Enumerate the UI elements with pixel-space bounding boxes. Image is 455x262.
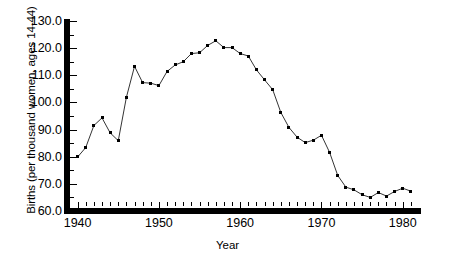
data-point <box>304 141 307 144</box>
data-point <box>214 39 217 42</box>
data-point <box>409 190 412 193</box>
data-point <box>149 82 152 85</box>
data-point <box>344 186 347 189</box>
data-point <box>287 126 290 129</box>
data-point <box>182 60 185 63</box>
data-point <box>328 151 331 154</box>
data-point <box>92 124 95 127</box>
data-point <box>206 44 209 47</box>
data-point <box>312 139 315 142</box>
data-point <box>385 195 388 198</box>
data-point <box>141 81 144 84</box>
data-point <box>109 131 112 134</box>
data-point <box>279 111 282 114</box>
birth-rate-line-chart: Births (per thousand women, ages 14-44) … <box>0 0 455 262</box>
data-point <box>361 193 364 196</box>
data-point <box>222 46 225 49</box>
data-point <box>352 188 355 191</box>
data-point <box>239 52 242 55</box>
data-point <box>296 136 299 139</box>
data-point <box>336 174 339 177</box>
data-point <box>133 65 136 68</box>
data-point <box>198 51 201 54</box>
data-point <box>247 55 250 58</box>
data-point <box>271 88 274 91</box>
data-point <box>190 52 193 55</box>
data-point <box>84 146 87 149</box>
data-point <box>393 190 396 193</box>
data-point <box>255 68 258 71</box>
data-point <box>101 116 104 119</box>
data-point <box>76 155 79 158</box>
data-point <box>377 191 380 194</box>
data-point <box>369 196 372 199</box>
data-point <box>231 46 234 49</box>
data-point <box>157 84 160 87</box>
x-axis-title: Year <box>0 239 455 251</box>
series-polyline <box>78 41 411 198</box>
data-point <box>117 139 120 142</box>
data-series-line <box>0 0 455 262</box>
data-point <box>263 78 266 81</box>
data-point <box>125 96 128 99</box>
data-point <box>166 70 169 73</box>
data-point <box>401 187 404 190</box>
data-point <box>320 134 323 137</box>
data-point <box>174 63 177 66</box>
